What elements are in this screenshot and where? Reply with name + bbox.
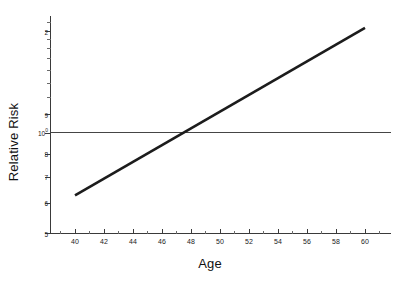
x-tick-label: 48 [187, 238, 195, 245]
x-tick-label-group: 40 42 44 46 48 50 52 54 56 58 60 [0, 0, 405, 284]
x-tick-label: 44 [129, 238, 137, 245]
x-axis-title: Age [50, 256, 370, 271]
x-tick-label: 60 [361, 238, 369, 245]
x-tick-label: 46 [158, 238, 166, 245]
x-tick-label: 56 [303, 238, 311, 245]
x-tick-label: 52 [245, 238, 253, 245]
x-tick-label: 58 [332, 238, 340, 245]
x-tick-label: 40 [71, 238, 79, 245]
x-tick-label: 50 [216, 238, 224, 245]
x-tick-label: 42 [100, 238, 108, 245]
x-tick-label: 54 [274, 238, 282, 245]
chart-figure: Relative Risk [0, 0, 405, 284]
